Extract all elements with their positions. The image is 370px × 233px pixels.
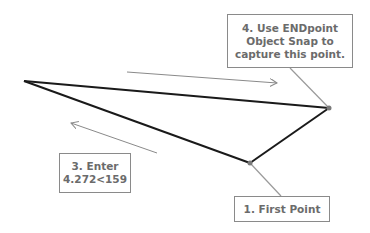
edge-left-to-bottom [24,81,250,163]
callout-step3-line2: 4.272<159 [63,173,127,186]
edge-bottom-to-right [250,108,329,163]
callout-step1: 1. First Point [234,196,330,222]
callout-step4: 4. Use ENDpoint Object Snap to capture t… [227,14,353,68]
callout-step3-line1: 3. Enter [72,160,119,173]
callout-step4-line2: Object Snap to [246,35,334,48]
callout-step4-line3: capture this point. [235,48,345,61]
direction-arrow-right [127,72,277,83]
callout-step3: 3. Enter 4.272<159 [59,153,131,193]
callout-step1-line1: 1. First Point [244,203,321,216]
direction-arrow-left [71,123,157,153]
vertex-bottom-marker [248,161,253,166]
leader-step1 [250,163,281,196]
callout-step4-line1: 4. Use ENDpoint [242,22,338,35]
edge-left-to-right [24,81,329,108]
leader-step4 [290,68,329,108]
vertex-right-marker [327,106,332,111]
